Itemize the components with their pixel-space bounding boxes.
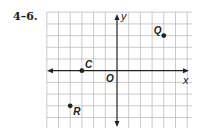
point-label-R: R: [73, 106, 81, 117]
x-axis-label: x: [182, 74, 189, 86]
point-R: [68, 103, 73, 108]
y-axis-arrow-up: [115, 14, 120, 20]
point-C: [80, 68, 85, 73]
x-axis-arrow-left: [47, 68, 53, 73]
point-label-C: C: [85, 59, 93, 70]
point-label-Q: Q: [154, 25, 162, 36]
axes: xyO: [47, 10, 189, 127]
coordinate-plane: xyO QCR: [0, 0, 200, 132]
y-axis-arrow-down: [115, 121, 120, 127]
origin-label: O: [106, 73, 114, 84]
x-axis-arrow-right: [183, 68, 189, 73]
point-Q: [161, 33, 166, 38]
grid: [47, 12, 192, 128]
